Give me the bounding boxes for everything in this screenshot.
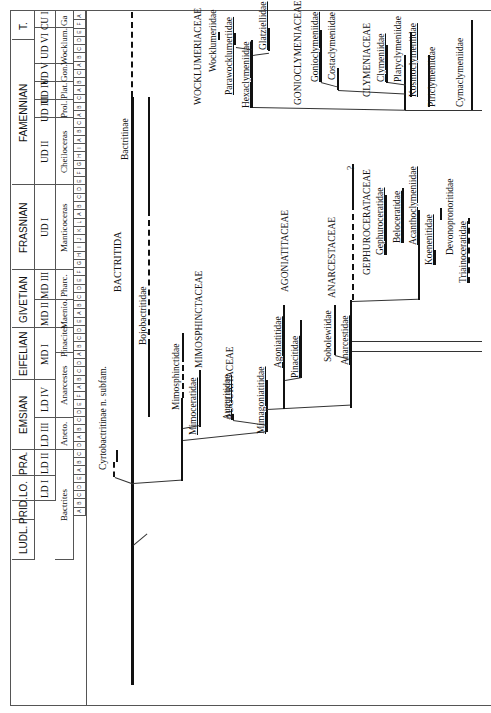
mimagoniatitidae-label: Mimagoniatitidae [256,366,266,434]
zone-cell: Manticoceras [55,185,73,270]
devonopronoritidae-dashed [440,208,442,220]
subzone-letter: C [73,450,85,458]
bojobactritidae-solid-lower [148,345,150,417]
acanthoclymeniidae-label: Acanthoclymeniidae [408,166,418,245]
stage-cell-label: EMSIAN [18,396,29,434]
cymaclymeniidae-line [471,20,473,110]
zone-cell-label: Manticoceras [59,203,69,251]
zone-cell: Prol. [55,100,73,118]
devonopronoritidae-label: Devonopronoritidae [445,178,455,255]
subzone-letter: C [73,119,85,127]
subzone-letter: A [73,136,85,144]
stage-cell-label: LUDL. [18,526,29,554]
substage-cell-label: UD I [40,218,50,237]
subzone-letter: A [73,12,85,20]
costaclymeniidae-label: Costaclymeniidae [327,12,337,80]
substage-cell: UD III [34,100,55,118]
substage-cell: UD II [34,118,55,185]
stage-cell-label: EIFELIAN [18,332,29,376]
subzone-letter: J [73,235,85,243]
bojobactritidae-solid [148,97,150,210]
zone-cell: Bactrites [55,450,73,560]
parawocklumeriidae-line [234,33,236,45]
subzone-letter: F [73,169,85,177]
subzone-letter: E [73,400,85,408]
question-line [352,164,354,204]
cyrtobactritinae-solid [116,450,118,462]
subzone-letter: B [73,53,85,61]
bojobactritidae-label: Bojobactritidae [138,286,148,345]
stage-cell: EMSIAN [12,380,34,450]
koenenitidae-trunk [418,242,420,300]
gonioclymeniidae-line [320,30,322,82]
kosmoclymeniidae-label: Kosmoclymeniidae [408,23,418,97]
zone-cell-label: Pharc. [59,274,69,297]
stage-cell-label: FRASNIAN [18,202,29,253]
beloceratidae-label: Beloceratidae [392,191,402,243]
zone-cell: Pharc. [55,270,73,300]
anarcestidae-line [350,300,352,408]
subzone-letter: C [73,95,85,103]
subzone-letter: I [73,144,85,152]
clymeniaceae-label: CLYMENIACEAE [362,23,372,97]
zone-cell: Plat. [55,82,73,100]
zone-cell: Ga [55,12,73,28]
subzone-letter: I [73,243,85,251]
branch-right [352,341,482,342]
zone-cell-label: Plat. [59,83,69,99]
subzone-letter: D [73,409,85,417]
subzone-letter: E [73,475,85,483]
stage-cell-label: LO. [18,480,29,496]
gephuroceratidae-label: Gephuroceratidae [375,187,385,255]
subzone-letter: F [73,20,85,28]
substage-cell: UD VI [34,28,55,64]
substage-cell: MD I [34,328,55,380]
anarcestidae-label: Anarcestidae [340,315,350,365]
platyclymeniidae-label: Platyclymeniidae [393,16,403,82]
subzone-letter: H [73,152,85,160]
acanthoclymeniidae-line [418,210,420,242]
subzone-letter: B [73,202,85,210]
subzone-letter: C [73,334,85,342]
substage-cell: UD I [34,185,55,270]
gephuroceratacea-label: GEPHUROCERATACEAE [362,169,372,275]
subzone-letter: A [73,62,85,70]
subzone-letter: D [73,442,85,450]
clymeniidae-label: Clymeniidae [376,33,386,82]
substage-cell: LD II [34,450,55,476]
zone-cell: Wocklum. [55,28,73,64]
subzone-letter: B [73,376,85,384]
bactritinae-range-dashed [131,12,133,97]
gonioclymeniaceae-label: GONIOCLYMENIACEAE [293,0,303,105]
gonioclymeniidae-label: Gonioclymeniidae [310,12,320,82]
substage-cell: MD II [34,300,55,328]
zone-cell-label: Anarcestes [59,366,69,405]
subzone-letter: A [73,210,85,218]
mimosphinctidae-top [182,333,184,356]
subzone-letter: B [73,458,85,466]
triainoceratidae-dashed [468,218,470,283]
wocklumeriidae-label: Wocklumeriidae [208,9,218,72]
subzone-letter: G [73,260,85,268]
stage-cell: PRID. [12,501,34,520]
agoniatitidae-line [283,305,285,409]
stage-cell: FRASNIAN [12,185,34,270]
substage-cell: LD IV [34,380,55,418]
anarcestaceae-label: ANARCESTACEAE [327,217,337,298]
bojobactritidae-dashed [148,210,150,345]
zone-cell-label: Ga [59,15,69,26]
cyrtobactritinae-dashed [113,462,115,477]
substage-cell-label: LD IV [40,386,50,411]
branch [405,110,482,111]
subzone-letter: K [73,227,85,235]
header-right-border [86,11,87,705]
subzone-letter: B [73,425,85,433]
pinacitidae-line [300,320,302,378]
subzone-letter: E [73,29,85,37]
agoniatitaceae-label: AGONIATITACEAE [280,210,290,292]
triainoceratidae-label: Triainoceratidae [458,221,468,283]
subzone-letter: D [73,483,85,491]
substage-cell-label: LD III [40,422,50,447]
substage-cell-label: LD II [40,452,50,473]
substage-cell-label: MD I [40,344,50,365]
